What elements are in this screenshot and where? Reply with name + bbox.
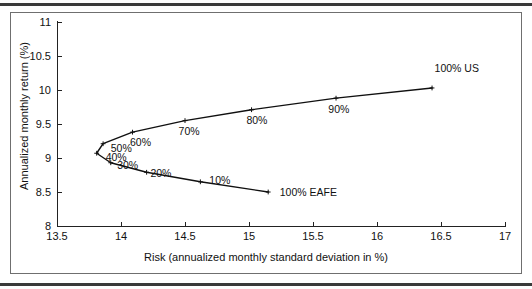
data-point-marker — [266, 190, 271, 195]
data-point-marker — [183, 118, 188, 123]
annotation-80: 80% — [246, 115, 267, 126]
annotation-90: 90% — [328, 104, 349, 115]
data-point-marker — [130, 130, 135, 135]
annotation-70: 70% — [179, 126, 200, 137]
figure-root: 88.599.51010.511 13.51414.51515.51616.51… — [0, 0, 532, 289]
annotation-10: 10% — [209, 175, 230, 186]
y-axis-title: Annualized monthly return (%) — [18, 6, 30, 226]
x-axis-title: Risk (annualized monthly standard deviat… — [0, 251, 532, 263]
data-point-marker — [249, 107, 254, 112]
efficient-frontier-plot — [0, 0, 532, 289]
annotation-100-us: 100% US — [435, 63, 479, 74]
data-point-marker — [198, 179, 203, 184]
data-point-marker — [334, 96, 339, 101]
data-point-marker — [144, 170, 149, 175]
annotation-30: 30% — [117, 160, 138, 171]
annotation-60: 60% — [130, 137, 151, 148]
annotation-20: 20% — [150, 168, 171, 179]
annotation-100-eafe: 100% EAFE — [280, 187, 337, 198]
data-point-marker — [430, 86, 435, 91]
